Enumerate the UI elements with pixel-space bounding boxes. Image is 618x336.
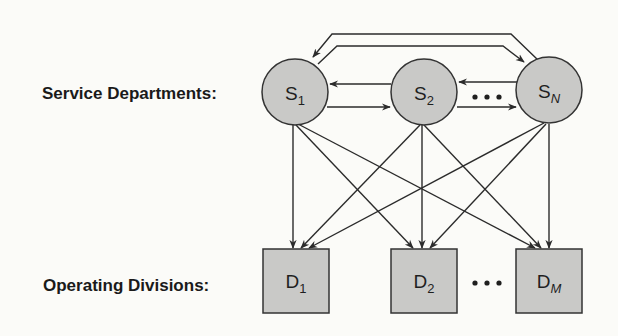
- edge-s2-to-d1: [301, 125, 420, 248]
- division-node-d1: D1: [263, 249, 329, 313]
- division-ellipsis: [472, 280, 501, 285]
- edge-s1-to-d2: [296, 125, 413, 248]
- service-node-sn: SN: [516, 57, 582, 123]
- service-ellipsis: [472, 94, 501, 99]
- division-node-dm: DM: [516, 249, 582, 313]
- service-node-s2: S2: [391, 59, 457, 125]
- operating-divisions-label: Operating Divisions:: [43, 276, 209, 295]
- division-node-d2: D2: [391, 249, 457, 313]
- allocation-diagram: Service Departments: Operating Divisions…: [0, 0, 618, 336]
- edge-sn-to-d2: [430, 124, 546, 248]
- edge-s2-to-dm: [424, 125, 541, 248]
- allocation-edges: [293, 123, 549, 248]
- edge-sn-to-d1: [309, 123, 544, 248]
- service-node-s1: S1: [262, 59, 328, 125]
- service-departments-label: Service Departments:: [42, 84, 217, 103]
- edge-s1-to-dm: [298, 124, 535, 248]
